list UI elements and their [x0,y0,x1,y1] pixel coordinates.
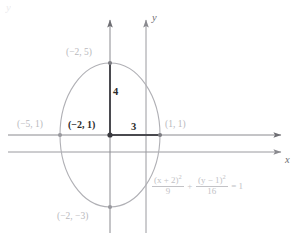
center-point-marker [107,132,112,137]
term1-numerator: (x + 2)2 [152,176,184,186]
ellipse-equation: (x + 2)2 9 + (y − 1)2 16 = 1 [152,176,244,197]
top-vertex-marker [108,61,112,65]
label-center-point: (−2, 1) [68,120,95,130]
term1-denominator: 9 [164,187,173,197]
ellipse-figure: y (−2, 5) (−2, −3) (−5, 1) (1, 1) (−2, 1… [0,0,300,242]
equation-term-2: (y − 1)2 16 [196,176,228,197]
label-semi-minor-measure: 3 [131,122,136,133]
bottom-vertex-marker [108,205,112,209]
label-right-vertex: (1, 1) [165,120,186,130]
figure-canvas [0,0,300,242]
term2-numerator: (y − 1)2 [196,176,228,186]
right-vertex-marker [158,133,162,137]
equation-equals-one: = 1 [230,181,244,191]
equation-term-1: (x + 2)2 9 [152,176,184,197]
label-left-vertex: (−5, 1) [17,120,43,130]
label-bottom-vertex: (−2, −3) [57,212,88,222]
label-top-vertex: (−2, 5) [66,48,92,58]
term2-denominator: 16 [205,187,218,197]
label-semi-major-measure: 4 [113,87,118,98]
scan-artifact: y [6,1,20,14]
left-vertex-marker [58,133,62,137]
equation-plus-operator: + [186,181,193,191]
y-axis-label: y [152,13,157,24]
x-axis-label: x [285,155,290,166]
